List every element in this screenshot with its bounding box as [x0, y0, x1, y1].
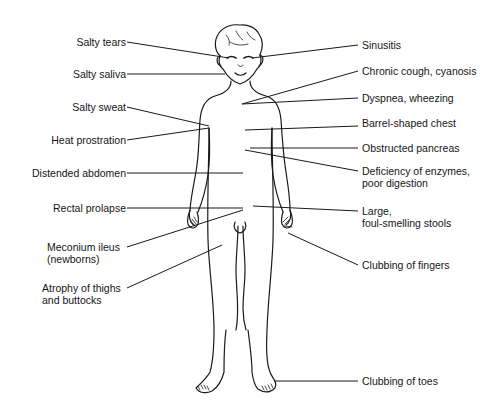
label-text: Barrel-shaped chest [362, 117, 456, 129]
label-sinusitis: Sinusitis [362, 39, 401, 51]
right-toes [262, 384, 273, 390]
leader-salty-sweat [127, 107, 209, 126]
label-text: Clubbing of toes [362, 375, 438, 387]
left-hand [187, 210, 198, 228]
leader-atrophy-thighs [127, 245, 222, 288]
right-eye [244, 57, 253, 59]
label-text: Meconium ileus [47, 241, 120, 253]
label-clubbing-fingers: Clubbing of fingers [362, 259, 450, 271]
hair-strands [226, 31, 255, 45]
label-meconium-ileus: Meconium ileus (newborns) [47, 241, 120, 265]
left-inner-leg [236, 226, 238, 330]
leader-stools [253, 206, 358, 211]
label-text: Rectal prolapse [53, 202, 126, 214]
face-outline [219, 55, 261, 84]
left-toes [198, 385, 209, 390]
leader-salty-tears [127, 42, 229, 58]
label-stools: Large, foul-smelling stools [362, 205, 451, 229]
label-text: and buttocks [42, 294, 121, 306]
leader-barrel-chest [245, 126, 358, 130]
label-clubbing-toes: Clubbing of toes [362, 375, 438, 387]
label-text: foul-smelling stools [362, 217, 451, 229]
leader-clubbing-fingers [288, 233, 358, 265]
label-atrophy-thighs: Atrophy of thighs and buttocks [42, 282, 121, 306]
child-figure [187, 25, 292, 393]
label-text: Dyspnea, wheezing [362, 92, 454, 104]
label-rectal-prolapse: Rectal prolapse [53, 202, 126, 214]
label-text: Chronic cough, cyanosis [362, 65, 476, 77]
groin [234, 222, 246, 233]
mouth [235, 73, 246, 75]
label-text: Salty sweat [72, 101, 126, 113]
right-hand [282, 210, 293, 228]
label-text: Salty saliva [73, 68, 126, 80]
left-torso-leg-outer [196, 128, 226, 393]
leader-enzyme-deficiency [245, 150, 358, 171]
label-chronic-cough: Chronic cough, cyanosis [362, 65, 476, 77]
leader-meconium-ileus [127, 210, 243, 247]
leader-heat-prostration [127, 128, 209, 140]
label-text: Obstructed pancreas [362, 142, 459, 154]
label-text: Sinusitis [362, 39, 401, 51]
leader-sinusitis [252, 45, 358, 58]
label-text: Clubbing of fingers [362, 259, 450, 271]
right-inner-leg [243, 226, 246, 330]
label-text: poor digestion [362, 177, 470, 189]
label-salty-tears: Salty tears [76, 36, 126, 48]
label-salty-saliva: Salty saliva [73, 68, 126, 80]
label-text: Salty tears [76, 36, 126, 48]
label-distended-abdomen: Distended abdomen [32, 167, 126, 179]
leader-lines [127, 42, 358, 381]
label-text: Atrophy of thighs [42, 282, 121, 294]
label-text: Large, [362, 205, 451, 217]
label-text: (newborns) [47, 253, 120, 265]
label-barrel-chest: Barrel-shaped chest [362, 117, 456, 129]
label-salty-sweat: Salty sweat [72, 101, 126, 113]
label-enzyme-deficiency: Deficiency of enzymes, poor digestion [362, 165, 470, 189]
nose [238, 65, 243, 67]
label-text: Distended abdomen [32, 167, 126, 179]
label-text: Deficiency of enzymes, [362, 165, 470, 177]
label-heat-prostration: Heat prostration [51, 134, 126, 146]
label-dyspnea: Dyspnea, wheezing [362, 92, 454, 104]
label-obstructed-pancreas: Obstructed pancreas [362, 142, 459, 154]
label-text: Heat prostration [51, 134, 126, 146]
